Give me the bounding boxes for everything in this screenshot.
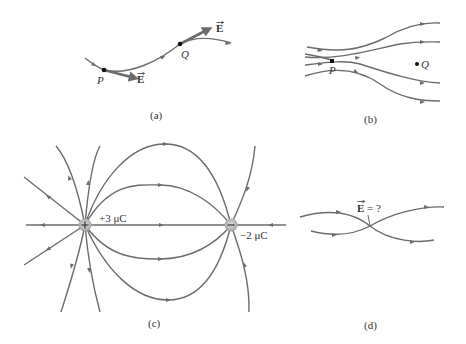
panel-d: E = ? (d) <box>300 200 444 332</box>
field-line <box>231 146 255 225</box>
negative-charge <box>225 219 238 232</box>
positive-charge <box>79 219 92 232</box>
svg-text:E: E <box>216 22 223 34</box>
field-line <box>305 70 440 101</box>
panel-b: P Q (b) <box>305 22 440 126</box>
label-negative-charge: −2 μC <box>240 229 268 241</box>
field-line <box>24 177 85 225</box>
field-line <box>85 225 231 259</box>
label-p: P <box>96 74 104 86</box>
label-q: Q <box>181 48 189 60</box>
panel-a: P Q E E (a) <box>85 21 231 122</box>
caption-b: (b) <box>364 113 377 126</box>
label-e-at-q: E <box>216 21 224 34</box>
field-line <box>85 225 231 300</box>
field-line <box>85 39 231 72</box>
label-e-at-p: E <box>137 72 145 85</box>
point-p <box>330 59 334 63</box>
caption-a: (a) <box>150 109 163 122</box>
point-p <box>102 68 107 73</box>
point-q <box>178 42 183 47</box>
e-vector-at-q <box>180 31 205 44</box>
label-q: Q <box>421 58 429 70</box>
svg-text:E: E <box>137 73 144 85</box>
label-positive-charge: +3 μC <box>99 212 127 224</box>
panel-c: +3 μC −2 μC (c) <box>24 142 286 330</box>
electric-field-figure: P Q E E (a) P Q (b) <box>0 0 466 344</box>
caption-c: (c) <box>148 317 161 330</box>
label-e-question: E = ? <box>357 200 381 214</box>
field-line <box>24 225 85 265</box>
field-line <box>307 23 440 50</box>
caption-d: (d) <box>364 319 377 332</box>
point-q <box>415 62 419 66</box>
svg-text:E = ?: E = ? <box>357 202 381 214</box>
label-p: P <box>328 64 336 76</box>
